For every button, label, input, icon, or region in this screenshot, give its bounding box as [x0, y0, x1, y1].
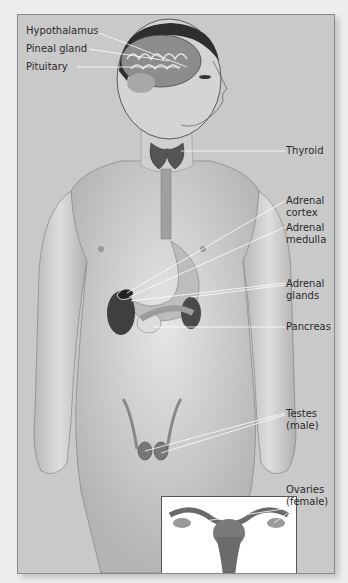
testis-right [154, 442, 168, 460]
label-pancreas: Pancreas [286, 321, 331, 333]
diagram-panel: Hypothalamus Pineal gland Pituitary Thyr… [17, 14, 335, 574]
label-thyroid: Thyroid [286, 145, 324, 157]
label-adrenal-cortex: Adrenal cortex [286, 195, 324, 219]
eye [199, 75, 211, 79]
label-adrenal-glands: Adrenal glands [286, 278, 324, 302]
uterus-ovaries-illustration [162, 497, 296, 574]
label-testes: Testes (male) [286, 408, 319, 432]
label-pineal-gland: Pineal gland [26, 43, 87, 55]
label-pituitary: Pituitary [26, 61, 68, 73]
label-ovaries: Ovaries (female) [286, 484, 328, 508]
ovaries-inset [161, 496, 297, 574]
label-hypothalamus: Hypothalamus [26, 25, 99, 37]
label-adrenal-medulla: Adrenal medulla [286, 222, 326, 246]
